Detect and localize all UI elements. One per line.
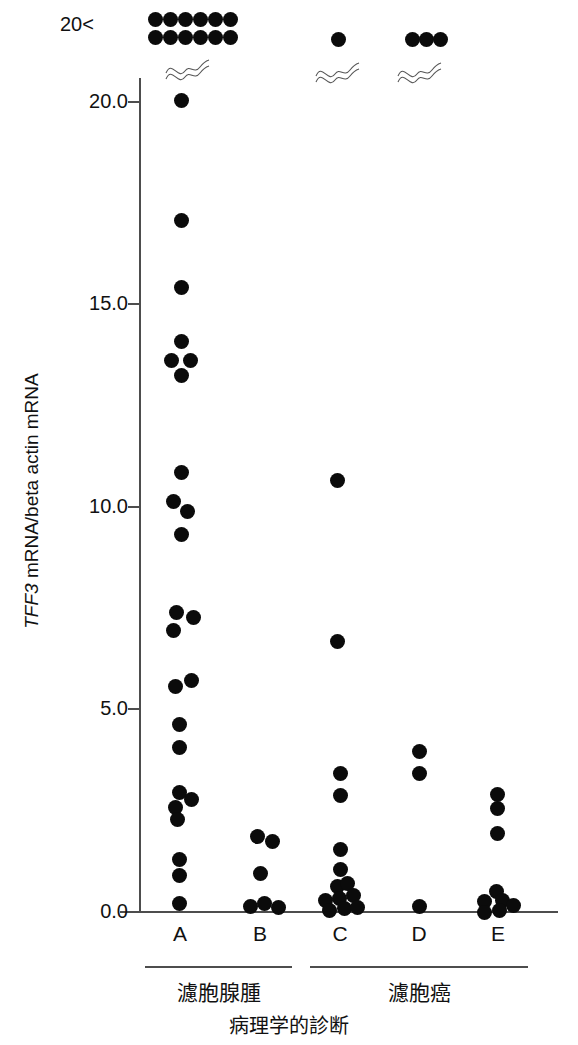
data-point [330,473,345,488]
data-point [333,766,348,781]
data-point [172,717,187,732]
group-bracket-adenoma [145,966,292,968]
data-point [184,792,199,807]
y-tick-label-15-wrap: 15.0 [52,293,128,313]
data-point [490,787,505,802]
data-point [184,673,199,688]
y-axis-title-rest: mRNA/beta actin mRNA [21,373,42,583]
axis-break-label: 20< [60,13,94,35]
data-point [350,900,365,915]
axis-break-squiggle-c [312,58,364,88]
data-point [183,353,198,368]
data-point [174,527,189,542]
data-point-above-break [148,12,163,27]
y-tick-label-0-wrap: 0.0 [52,901,128,921]
data-point [333,842,348,857]
y-tick-label-20: 20.0 [62,91,128,111]
data-point-above-break [223,30,238,45]
data-point-above-break [331,32,346,47]
y-axis-title: TFF3 mRNA/beta actin mRNA [21,336,43,666]
data-point [174,93,189,108]
data-point [506,898,521,913]
data-point [180,504,195,519]
data-point [174,465,189,480]
data-point [174,334,189,349]
y-tick-mark-15 [128,303,140,305]
data-point [250,829,265,844]
data-point [169,605,184,620]
y-tick-mark-5 [128,708,140,710]
x-tick-label-e: E [468,922,528,946]
data-point [265,834,280,849]
data-point [172,896,187,911]
data-point [164,353,179,368]
y-tick-label-15: 15.0 [62,293,128,313]
axis-break-squiggle-a [162,55,214,85]
data-point-above-break [208,30,223,45]
data-point [490,801,505,816]
y-tick-mark-20 [128,101,140,103]
data-point [168,679,183,694]
data-point [412,744,427,759]
y-tick-label-10-wrap: 10.0 [52,496,128,516]
data-point-above-break [163,30,178,45]
data-point [271,900,286,915]
x-tick-label-c: C [310,922,370,946]
data-point [412,899,427,914]
data-point-above-break [223,12,238,27]
y-tick-label-0: 0.0 [62,901,128,921]
data-point [477,905,492,920]
data-point-above-break [148,30,163,45]
y-tick-mark-0 [128,911,140,913]
data-point [492,903,507,918]
data-point [330,634,345,649]
data-point [253,866,268,881]
data-point [490,826,505,841]
data-point [172,852,187,867]
data-point-above-break [178,12,193,27]
data-point-above-break [419,32,434,47]
data-point-above-break [163,12,178,27]
data-point [170,812,185,827]
data-point-above-break [178,30,193,45]
data-point [186,610,201,625]
data-point [412,766,427,781]
y-tick-label-10: 10.0 [62,496,128,516]
data-point [174,213,189,228]
data-point-above-break [433,32,448,47]
y-tick-label-5: 5.0 [62,698,128,718]
y-tick-mark-10 [128,506,140,508]
data-point-above-break [405,32,420,47]
data-point [174,368,189,383]
y-tick-label-5-wrap: 5.0 [52,698,128,718]
data-point [172,868,187,883]
dot-plot-figure: 20< 20.0 15.0 10.0 5.0 0.0 TFF3 mRNA/bet… [0,0,578,1045]
data-point [257,896,272,911]
group-bracket-carcinoma [310,966,528,968]
data-point [166,623,181,638]
x-tick-label-b: B [230,922,290,946]
data-point [322,903,337,918]
axis-break-squiggle-d [394,58,446,88]
data-point [174,280,189,295]
group-label-adenoma: 濾胞腺腫 [145,976,292,1006]
data-point [166,494,181,509]
axis-break-label-text: 20< [60,13,94,35]
y-axis-line [139,78,141,913]
data-point-above-break [193,12,208,27]
x-tick-label-a: A [150,922,210,946]
x-axis-title: 病理学的診断 [0,1010,578,1039]
data-point [333,862,348,877]
y-tick-label-20-wrap: 20.0 [52,91,128,111]
x-tick-label-d: D [389,922,449,946]
group-label-carcinoma: 濾胞癌 [310,976,528,1006]
y-axis-title-gene: TFF3 [21,583,42,628]
data-point [243,899,258,914]
data-point [333,788,348,803]
data-point-above-break [193,30,208,45]
data-point-above-break [208,12,223,27]
data-point [172,740,187,755]
